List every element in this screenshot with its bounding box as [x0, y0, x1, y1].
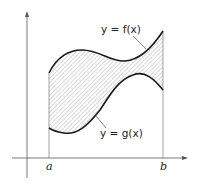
area-between-curves-diagram: y = f(x) y = g(x) a b	[0, 0, 198, 188]
label-g: y = g(x)	[100, 127, 143, 139]
x-axis-arrow-icon	[182, 156, 188, 160]
leader-line-f	[133, 36, 146, 49]
tick-label-a: a	[46, 160, 53, 173]
y-axis-arrow-icon	[25, 11, 29, 17]
tick-label-b: b	[160, 160, 167, 173]
label-f: y = f(x)	[101, 23, 141, 35]
shaded-region	[49, 31, 163, 133]
